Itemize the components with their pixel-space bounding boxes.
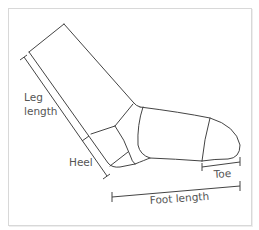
sock-outline — [29, 24, 240, 167]
leg-length-label-line2: length — [24, 105, 57, 117]
sock-foot-sole — [135, 158, 202, 164]
sock-diagram: Leg length Heel Toe Foot length — [0, 0, 259, 230]
sock-foot-top — [140, 107, 240, 161]
sock-leg-front — [64, 24, 140, 107]
toe-label: Toe — [212, 167, 231, 180]
leg-length-measure — [20, 55, 110, 179]
instep-line — [138, 107, 150, 158]
leg-length-label-line1: Leg — [24, 91, 43, 103]
heel-gusset-side — [115, 126, 135, 164]
heel-to-instep-line — [115, 104, 133, 126]
heel-gusset-top — [91, 126, 115, 134]
foot-length-label: Foot length — [149, 190, 209, 206]
heel-measure — [82, 136, 89, 141]
heel-label: Heel — [69, 156, 93, 168]
heel-cup-line — [110, 152, 128, 166]
sock-cuff-edge — [29, 24, 64, 52]
toe-line — [202, 118, 210, 161]
